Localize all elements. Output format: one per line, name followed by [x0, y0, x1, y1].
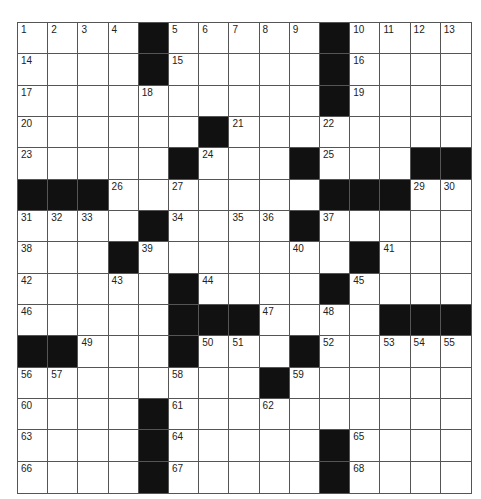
- grid-cell[interactable]: 13: [441, 23, 471, 54]
- grid-cell[interactable]: [441, 399, 471, 430]
- grid-cell[interactable]: 1: [18, 23, 48, 54]
- grid-cell[interactable]: [229, 368, 259, 399]
- grid-cell[interactable]: 25: [320, 148, 350, 179]
- grid-cell[interactable]: [350, 305, 380, 336]
- grid-cell[interactable]: 40: [290, 242, 320, 273]
- grid-cell[interactable]: 55: [441, 336, 471, 367]
- grid-cell[interactable]: 17: [18, 86, 48, 117]
- grid-cell[interactable]: 7: [229, 23, 259, 54]
- grid-cell[interactable]: [229, 180, 259, 211]
- grid-cell[interactable]: 15: [169, 54, 199, 85]
- grid-cell[interactable]: [290, 462, 320, 493]
- grid-cell[interactable]: [260, 180, 290, 211]
- grid-cell[interactable]: 6: [199, 23, 229, 54]
- grid-cell[interactable]: [78, 274, 108, 305]
- grid-cell[interactable]: 19: [350, 86, 380, 117]
- grid-cell[interactable]: [109, 462, 139, 493]
- grid-cell[interactable]: [229, 274, 259, 305]
- grid-cell[interactable]: [109, 305, 139, 336]
- grid-cell[interactable]: [78, 86, 108, 117]
- grid-cell[interactable]: [290, 117, 320, 148]
- grid-cell[interactable]: [139, 305, 169, 336]
- grid-cell[interactable]: [260, 148, 290, 179]
- grid-cell[interactable]: [441, 368, 471, 399]
- grid-cell[interactable]: [109, 430, 139, 461]
- grid-cell[interactable]: [441, 274, 471, 305]
- grid-cell[interactable]: 34: [169, 211, 199, 242]
- grid-cell[interactable]: [350, 117, 380, 148]
- grid-cell[interactable]: [260, 117, 290, 148]
- grid-cell[interactable]: 37: [320, 211, 350, 242]
- grid-cell[interactable]: 50: [199, 336, 229, 367]
- grid-cell[interactable]: [229, 242, 259, 273]
- grid-cell[interactable]: [139, 117, 169, 148]
- grid-cell[interactable]: [380, 54, 410, 85]
- grid-cell[interactable]: 24: [199, 148, 229, 179]
- grid-cell[interactable]: [139, 148, 169, 179]
- grid-cell[interactable]: [260, 274, 290, 305]
- grid-cell[interactable]: 30: [441, 180, 471, 211]
- grid-cell[interactable]: 43: [109, 274, 139, 305]
- grid-cell[interactable]: 33: [78, 211, 108, 242]
- grid-cell[interactable]: [229, 430, 259, 461]
- grid-cell[interactable]: [290, 180, 320, 211]
- grid-cell[interactable]: [411, 242, 441, 273]
- grid-cell[interactable]: 18: [139, 86, 169, 117]
- grid-cell[interactable]: 65: [350, 430, 380, 461]
- grid-cell[interactable]: 26: [109, 180, 139, 211]
- grid-cell[interactable]: [411, 86, 441, 117]
- grid-cell[interactable]: 31: [18, 211, 48, 242]
- grid-cell[interactable]: 32: [48, 211, 78, 242]
- grid-cell[interactable]: [199, 180, 229, 211]
- grid-cell[interactable]: 57: [48, 368, 78, 399]
- grid-cell[interactable]: 2: [48, 23, 78, 54]
- grid-cell[interactable]: [350, 368, 380, 399]
- grid-cell[interactable]: [290, 399, 320, 430]
- grid-cell[interactable]: 29: [411, 180, 441, 211]
- grid-cell[interactable]: [380, 399, 410, 430]
- grid-cell[interactable]: [411, 399, 441, 430]
- grid-cell[interactable]: 3: [78, 23, 108, 54]
- grid-cell[interactable]: [78, 242, 108, 273]
- grid-cell[interactable]: [109, 148, 139, 179]
- grid-cell[interactable]: 41: [380, 242, 410, 273]
- grid-cell[interactable]: [380, 368, 410, 399]
- grid-cell[interactable]: [441, 462, 471, 493]
- grid-cell[interactable]: [229, 86, 259, 117]
- grid-cell[interactable]: [350, 211, 380, 242]
- grid-cell[interactable]: 42: [18, 274, 48, 305]
- grid-cell[interactable]: 44: [199, 274, 229, 305]
- grid-cell[interactable]: [78, 305, 108, 336]
- grid-cell[interactable]: [260, 86, 290, 117]
- grid-cell[interactable]: 21: [229, 117, 259, 148]
- grid-cell[interactable]: [320, 368, 350, 399]
- grid-cell[interactable]: [48, 148, 78, 179]
- grid-cell[interactable]: 54: [411, 336, 441, 367]
- grid-cell[interactable]: [78, 430, 108, 461]
- grid-cell[interactable]: [441, 86, 471, 117]
- grid-cell[interactable]: [229, 399, 259, 430]
- grid-cell[interactable]: [169, 117, 199, 148]
- grid-cell[interactable]: [229, 462, 259, 493]
- grid-cell[interactable]: [48, 305, 78, 336]
- grid-cell[interactable]: 38: [18, 242, 48, 273]
- grid-cell[interactable]: 66: [18, 462, 48, 493]
- grid-cell[interactable]: [380, 462, 410, 493]
- grid-cell[interactable]: [290, 430, 320, 461]
- grid-cell[interactable]: [109, 399, 139, 430]
- grid-cell[interactable]: [441, 211, 471, 242]
- grid-cell[interactable]: [380, 211, 410, 242]
- grid-cell[interactable]: [380, 274, 410, 305]
- grid-cell[interactable]: [411, 274, 441, 305]
- grid-cell[interactable]: [380, 86, 410, 117]
- grid-cell[interactable]: [78, 54, 108, 85]
- grid-cell[interactable]: [411, 462, 441, 493]
- grid-cell[interactable]: 23: [18, 148, 48, 179]
- grid-cell[interactable]: [48, 462, 78, 493]
- grid-cell[interactable]: [380, 148, 410, 179]
- grid-cell[interactable]: [320, 242, 350, 273]
- grid-cell[interactable]: 16: [350, 54, 380, 85]
- grid-cell[interactable]: 67: [169, 462, 199, 493]
- grid-cell[interactable]: [199, 211, 229, 242]
- grid-cell[interactable]: [199, 462, 229, 493]
